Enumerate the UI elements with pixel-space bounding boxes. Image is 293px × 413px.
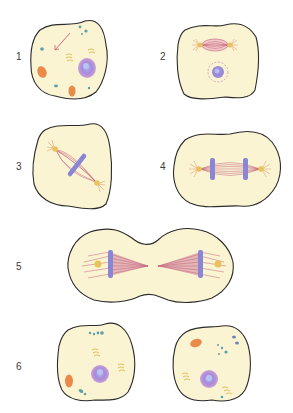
- centrosome-icon: [198, 43, 203, 48]
- mitochondrion-icon: [69, 86, 76, 97]
- cell-6a-daughter: [57, 323, 134, 401]
- chromosomes-icon: [243, 158, 248, 180]
- cell-5-telophase: [68, 228, 233, 302]
- centrosome-icon: [196, 166, 202, 172]
- cell-6b-daughter: [173, 326, 250, 401]
- cell-3-metaphase: [33, 124, 112, 209]
- stage-label-4: 4: [160, 162, 166, 172]
- centrosome-icon: [215, 261, 222, 268]
- centrosome-icon: [228, 43, 233, 48]
- chromosomes-icon: [198, 250, 203, 278]
- stage-label-2: 2: [160, 52, 166, 62]
- centrosome-icon: [52, 146, 58, 152]
- stage-label-5: 5: [16, 262, 22, 272]
- centrosome-icon: [258, 166, 264, 172]
- stage-label-3: 3: [16, 162, 22, 172]
- centrosome-icon: [95, 261, 102, 268]
- cell-1-interphase: [31, 20, 108, 98]
- stage-label-6: 6: [16, 362, 22, 372]
- mitochondrion-icon: [65, 375, 73, 388]
- chromosomes-icon: [108, 250, 113, 278]
- cell-2-prophase: [177, 24, 259, 99]
- cell-4-anaphase: [174, 132, 281, 207]
- stage-label-1: 1: [16, 52, 22, 62]
- centrosome-icon: [94, 180, 100, 186]
- mitosis-diagram: [0, 0, 293, 413]
- chromosomes-icon: [210, 158, 215, 180]
